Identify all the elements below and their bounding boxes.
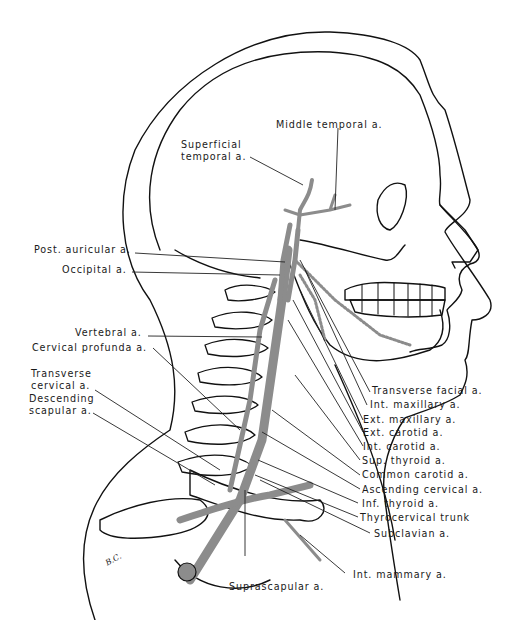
label-ascending-cervical-artery: Ascending cervical a. [362, 484, 483, 496]
label-cervical-profunda-artery: Cervical profunda a. [32, 342, 147, 354]
label-inf-thyroid-artery: Inf. thyroid a. [362, 498, 439, 510]
label-ext-carotid-artery: Ext. carotid a. [363, 427, 443, 439]
maxillary-artery [295, 260, 410, 345]
skull-outline [150, 52, 480, 352]
label-superficial-temporal-artery-line1: Superficial [181, 139, 242, 151]
orbit [377, 183, 406, 230]
illustration [0, 0, 522, 620]
nose-outline [440, 205, 478, 268]
label-descending-scapular-artery-line2: scapular a. [29, 405, 92, 417]
label-int-mammary-artery: Int. mammary a. [353, 569, 447, 581]
label-transverse-cervical-artery-line2: cervical a. [31, 380, 90, 392]
label-occipital-artery: Occipital a. [62, 264, 127, 276]
label-sup-thyroid-artery: Sup. thyroid a. [362, 455, 446, 467]
label-suprascapular-artery: Suprascapular a. [229, 581, 324, 593]
label-middle-temporal-artery: Middle temporal a. [276, 119, 382, 131]
label-int-maxillary-artery: Int. maxillary a. [370, 399, 460, 411]
subclavian-cut [178, 563, 196, 581]
mammary-artery [285, 520, 320, 560]
zygomatic-arch [300, 240, 405, 260]
label-common-carotid-artery: Common carotid a. [362, 469, 469, 481]
label-vertebral-artery: Vertebral a. [75, 327, 142, 339]
lower-teeth [350, 300, 445, 317]
upper-teeth [345, 283, 445, 300]
label-descending-scapular-artery-line1: Descending [29, 393, 94, 405]
label-int-carotid-artery: Int. carotid a. [363, 441, 441, 453]
label-thyrocervical-trunk: Thyrocervical trunk [360, 512, 470, 524]
label-superficial-temporal-artery-line2: temporal a. [181, 151, 246, 163]
label-post-auricular-artery: Post. auricular a. [34, 244, 131, 256]
superficial-temporal-artery [298, 180, 312, 230]
anatomy-diagram: Middle temporal a. Superficial temporal … [0, 0, 522, 620]
label-subclavian-artery: Subclavian a. [374, 528, 450, 540]
label-transverse-facial-artery: Transverse facial a. [372, 385, 483, 397]
common-carotid-artery [190, 250, 288, 580]
label-ext-maxillary-artery: Ext. maxillary a. [363, 414, 456, 426]
temporal-branches [285, 195, 350, 215]
label-transverse-cervical-artery-line1: Transverse [31, 368, 92, 380]
